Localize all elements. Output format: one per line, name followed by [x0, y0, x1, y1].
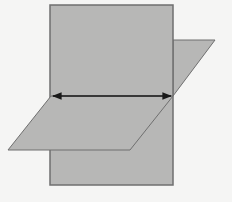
vertical-plane [50, 5, 173, 185]
intersecting-planes-diagram [0, 0, 232, 202]
horizontal-plane-back [173, 40, 215, 96]
diagram-svg [0, 0, 232, 202]
